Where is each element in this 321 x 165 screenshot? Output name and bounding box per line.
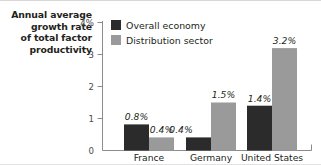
bar-united-states-overall-economy xyxy=(247,106,272,151)
category-label-france: France xyxy=(134,152,165,163)
y-tick-label-4: 4% xyxy=(80,18,94,28)
bar-chart-svg: 4% 3 2 1 0 Overall economy Distribution … xyxy=(0,0,321,165)
bottom-divider xyxy=(0,164,321,165)
value-label-france-overall-economy: 0.8% xyxy=(125,111,148,122)
value-label-united-states-distribution-sector: 3.2% xyxy=(273,35,296,46)
y-tick-label-3: 3 xyxy=(89,50,94,60)
value-label-united-states-overall-economy: 1.4% xyxy=(248,93,271,104)
legend-swatch-overall-economy xyxy=(111,20,121,30)
bar-germany-overall-economy xyxy=(186,137,211,150)
legend-label-overall-economy: Overall economy xyxy=(126,20,206,31)
category-label-germany: Germany xyxy=(190,152,233,163)
bar-france-distribution-sector xyxy=(149,137,174,150)
chart-figure: Annual average growth rate of total fact… xyxy=(0,0,321,165)
bar-germany-distribution-sector xyxy=(211,103,236,151)
legend-swatch-distribution-sector xyxy=(111,35,121,45)
value-label-germany-distribution-sector: 1.5% xyxy=(212,89,235,100)
bar-france-overall-economy xyxy=(124,124,149,150)
legend-label-distribution-sector: Distribution sector xyxy=(126,35,213,46)
value-label-germany-overall-economy: 0.4% xyxy=(169,124,192,135)
y-tick-label-1: 1 xyxy=(89,114,94,124)
y-tick-label-2: 2 xyxy=(89,82,94,92)
bar-united-states-distribution-sector xyxy=(272,48,297,150)
y-tick-label-0: 0 xyxy=(89,146,94,156)
category-label-united-states: United States xyxy=(241,152,303,163)
